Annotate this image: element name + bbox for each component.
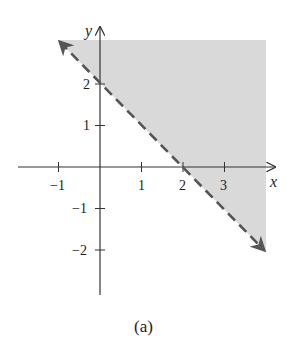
x-tick-label: 2 — [179, 178, 186, 193]
y-tick-label: −1 — [72, 201, 87, 216]
x-tick-label: 3 — [220, 178, 227, 193]
figure-caption: (a) — [134, 317, 153, 336]
y-tick-label: 2 — [83, 77, 90, 92]
y-tick-label: 1 — [83, 118, 90, 133]
y-axis-label: y — [83, 22, 93, 40]
x-axis-label: x — [269, 173, 277, 190]
y-tick-label: −2 — [72, 243, 87, 258]
x-tick-label: 1 — [138, 178, 145, 193]
x-tick-label: −1 — [50, 178, 65, 193]
chart-canvas: −1 1 2 3 2 1 −1 −2 x y (a) — [0, 0, 291, 350]
